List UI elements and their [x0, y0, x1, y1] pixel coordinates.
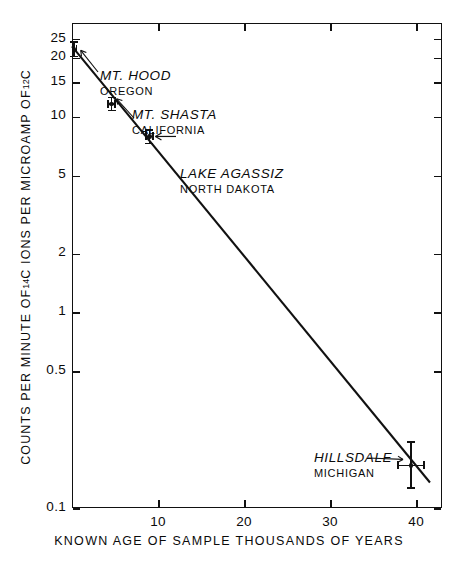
error-bar-cap-bottom: [70, 56, 78, 58]
x-tick-mark: [158, 500, 160, 507]
y-tick-mark: [434, 117, 441, 119]
point-annotation: HILLSDALEMICHIGAN: [314, 448, 392, 479]
y-tick-mark: [434, 371, 441, 373]
error-bar-cap-top: [407, 441, 415, 443]
y-tick-label: 15: [26, 73, 66, 88]
annotation-site-name: MT. HOOD: [100, 68, 171, 83]
data-point-dot[interactable]: [409, 463, 413, 467]
y-tick-mark: [73, 117, 80, 119]
x-tick-label: 40: [396, 514, 436, 529]
y-tick-label: 20: [26, 48, 66, 63]
y-tick-label: 0.1: [26, 499, 66, 514]
y-tick-mark: [434, 82, 441, 84]
x-tick-mark: [330, 500, 332, 507]
annotation-site-region: MICHIGAN: [314, 467, 392, 479]
point-annotation: LAKE AGASSIZNORTH DAKOTA: [180, 164, 284, 195]
y-tick-mark: [73, 508, 80, 510]
error-bar-cap-right: [114, 100, 116, 108]
y-tick-mark: [73, 371, 80, 373]
error-bar-cap-top: [70, 41, 78, 43]
y-tick-label: 1: [26, 303, 66, 318]
point-annotation: MT. SHASTACALIFORNIA: [132, 105, 217, 136]
y-tick-label: 2: [26, 244, 66, 259]
y-tick-mark: [434, 39, 441, 41]
annotation-site-name: MT. SHASTA: [132, 107, 217, 122]
y-tick-label: 10: [26, 107, 66, 122]
x-tick-mark: [244, 500, 246, 507]
y-tick-mark: [73, 82, 80, 84]
data-point-dot[interactable]: [72, 47, 76, 51]
y-tick-mark: [73, 58, 80, 60]
x-axis-title: KNOWN AGE OF SAMPLE THOUSANDS OF YEARS: [0, 534, 458, 548]
y-tick-label: 25: [26, 30, 66, 45]
x-tick-label: 30: [310, 514, 350, 529]
y-tick-mark: [73, 312, 80, 314]
chart-figure: COUNTS PER MINUTE OF 14C IONS PER MICROA…: [0, 0, 458, 561]
y-tick-mark: [434, 254, 441, 256]
annotation-site-name: LAKE AGASSIZ: [180, 166, 284, 181]
error-bar-cap-right: [423, 461, 425, 469]
annotation-site-region: OREGON: [100, 85, 171, 97]
x-tick-mark: [244, 24, 246, 31]
x-tick-mark: [330, 24, 332, 31]
annotation-site-region: CALIFORNIA: [132, 124, 217, 136]
y-tick-label: 0.5: [26, 362, 66, 377]
x-tick-mark: [158, 24, 160, 31]
data-point-dot[interactable]: [109, 102, 113, 106]
y-tick-mark: [73, 39, 80, 41]
y-axis-title-sup-14: 14: [21, 279, 31, 289]
y-tick-mark: [73, 176, 80, 178]
y-tick-mark: [434, 312, 441, 314]
error-bar-cap-left: [397, 461, 399, 469]
error-bar-cap-bottom: [145, 143, 153, 145]
point-annotation: MT. HOODOREGON: [100, 66, 171, 97]
y-tick-mark: [73, 254, 80, 256]
y-tick-mark: [434, 508, 441, 510]
y-tick-mark: [434, 176, 441, 178]
x-tick-label: 20: [224, 514, 264, 529]
x-tick-mark: [416, 500, 418, 507]
annotation-site-region: NORTH DAKOTA: [180, 183, 284, 195]
x-tick-mark: [416, 24, 418, 31]
error-bar-cap-bottom: [108, 110, 116, 112]
annotation-site-name: HILLSDALE: [314, 450, 392, 465]
y-tick-label: 5: [26, 166, 66, 181]
x-tick-label: 10: [138, 514, 178, 529]
y-tick-mark: [434, 58, 441, 60]
error-bar-cap-bottom: [407, 487, 415, 489]
